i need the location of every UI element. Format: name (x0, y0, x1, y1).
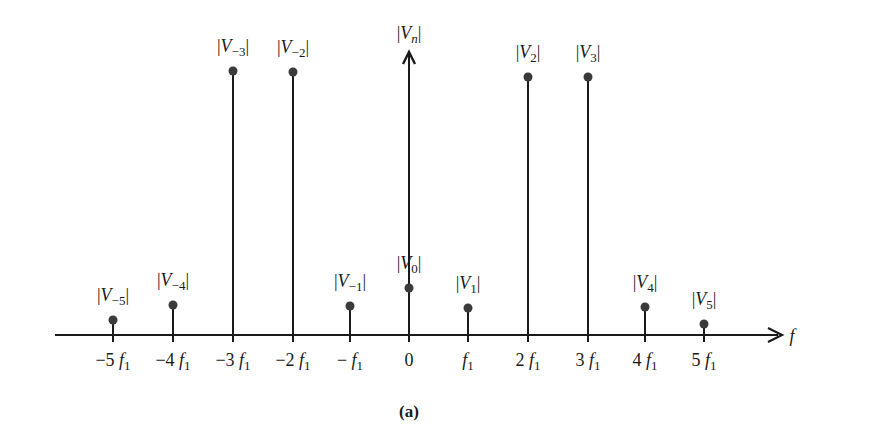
stem-dot (229, 67, 238, 76)
stem-dot (524, 73, 533, 82)
stem-dot (641, 303, 650, 312)
magnitude-label: |V−2| (277, 38, 309, 59)
stem-dot (289, 68, 298, 77)
stem-dot (464, 304, 473, 313)
tick-label: −4 f1 (155, 351, 190, 372)
magnitude-label: |V−5| (97, 286, 129, 307)
figure-caption: (a) (399, 402, 419, 422)
tick-label: −2 f1 (275, 351, 310, 372)
tick-label: −5 f1 (95, 351, 130, 372)
tick-label: 5 f1 (691, 351, 716, 372)
tick-label: 0 (405, 351, 414, 369)
tick-label: 2 f1 (515, 351, 540, 372)
tick-label: −3 f1 (215, 351, 250, 372)
tick-label: 4 f1 (632, 351, 657, 372)
magnitude-label: |V−3| (217, 37, 249, 58)
f-axis-label: f (789, 327, 794, 345)
magnitude-label: |V−4| (157, 271, 189, 292)
stem-dot (584, 73, 593, 82)
magnitude-label: |V4| (633, 273, 658, 294)
magnitude-label: |V2| (516, 43, 541, 64)
stem-dot (700, 320, 709, 329)
tick-label: − f1 (337, 351, 363, 372)
stem-dot (169, 301, 178, 310)
magnitude-label: |V5| (692, 290, 717, 311)
spectrum-diagram (0, 0, 891, 444)
tick-label: 3 f1 (575, 351, 600, 372)
stem-dot (346, 302, 355, 311)
stem-dot (109, 316, 118, 325)
tick-label: f1 (462, 351, 474, 372)
magnitude-label: |V1| (456, 274, 481, 295)
magnitude-label: |V3| (576, 43, 601, 64)
magnitude-label: |V0| (397, 254, 422, 275)
magnitude-label: |V−1| (334, 272, 366, 293)
vn-axis-label: |Vn| (397, 24, 422, 45)
stem-dot (405, 284, 414, 293)
